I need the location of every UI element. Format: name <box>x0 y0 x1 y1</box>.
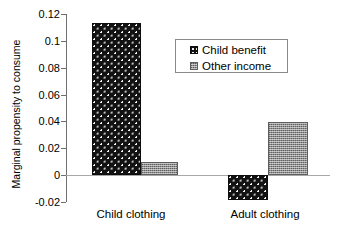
bar-adult-clothing-other-income <box>268 122 308 175</box>
legend-label: Other income <box>202 60 271 72</box>
x-axis-label-child-clothing: Child clothing <box>96 208 165 220</box>
bar-child-clothing-other-income <box>141 162 178 175</box>
bar-chart: Marginal propensity to consume 0.12 0.1 … <box>0 0 348 245</box>
bar-child-clothing-child-benefit <box>92 23 141 175</box>
legend-item-child-benefit: Child benefit <box>190 43 287 57</box>
legend-label: Child benefit <box>202 44 266 56</box>
legend-swatch-icon <box>190 62 198 70</box>
legend-item-other-income: Other income <box>190 59 287 73</box>
x-axis-label-adult-clothing: Adult clothing <box>230 208 299 220</box>
legend-swatch-icon <box>190 46 198 54</box>
bar-adult-clothing-child-benefit <box>228 175 268 200</box>
legend: Child benefit Other income <box>175 39 288 73</box>
